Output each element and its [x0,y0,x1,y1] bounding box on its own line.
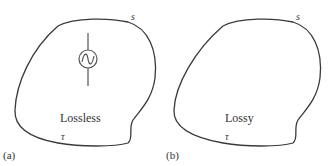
boundary-symbol-b: τ [225,131,229,142]
panel-label-a: (a) [3,149,16,162]
diagram-canvas: s Lossless τ (a) s Lossy τ (b) [0,0,331,166]
surface-symbol-b: s [296,11,300,22]
region-label-b: Lossy [225,111,254,125]
surface-symbol-a: s [131,11,135,22]
panel-a: s Lossless τ (a) [3,11,156,162]
region-boundary-a [15,19,156,146]
boundary-symbol-a: τ [61,131,65,142]
region-label-a: Lossless [60,111,101,125]
region-boundary-b [174,19,321,146]
panel-label-b: (b) [166,149,179,162]
ac-source-icon [79,33,97,86]
panel-b: s Lossy τ (b) [166,11,321,162]
